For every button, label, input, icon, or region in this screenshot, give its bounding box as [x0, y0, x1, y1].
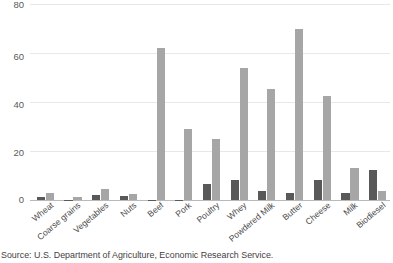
bar-dark-series-biodiesel [369, 170, 377, 201]
x-label-pork: Pork [174, 200, 194, 219]
x-label-nuts: Nuts [118, 200, 138, 219]
bar-light-series-poultry [212, 139, 220, 200]
bar-light-series-beef [157, 48, 165, 201]
plot-area: 80 60 40 20 0 [0, 0, 393, 205]
bar-light-series-milk [350, 168, 358, 201]
bar-dark-series-milk [341, 193, 349, 201]
bar-dark-series-powdered-milk [258, 191, 266, 201]
x-label-cheese: Cheese [303, 200, 332, 227]
x-label-milk: Milk [341, 200, 359, 217]
bar-dark-series-cheese [314, 180, 322, 201]
bar-dark-series-whey [231, 180, 239, 200]
bar-series-layer [30, 0, 390, 200]
y-tick-label: 20 [2, 148, 24, 157]
y-tick-label: 0 [2, 195, 24, 204]
bar-light-series-butter [295, 29, 303, 200]
x-label-biodiesel: Biodiesel [354, 200, 387, 230]
x-label-whey: Whey [226, 200, 249, 222]
source-note: Source: U.S. Department of Agriculture, … [1, 250, 273, 261]
x-label-beef: Beef [146, 200, 166, 219]
bar-dark-series-poultry [203, 184, 211, 200]
bar-dark-series-butter [286, 193, 294, 200]
y-tick-label: 80 [2, 0, 24, 9]
x-label-poultry: Poultry [194, 200, 221, 225]
x-label-butter: Butter [280, 200, 304, 222]
y-axis-ticks: 80 60 40 20 0 [0, 0, 24, 205]
bar-light-series-pork [184, 129, 192, 200]
x-axis-category-labels: WheatCoarse grainsVegetablesNutsBeefPork… [30, 200, 393, 248]
bar-light-series-biodiesel [378, 191, 386, 200]
y-tick-label: 60 [2, 52, 24, 61]
bar-chart-figure: 80 60 40 20 0 WheatCoarse grainsVegetabl… [0, 0, 393, 263]
bar-light-series-cheese [323, 96, 331, 201]
bar-light-series-powdered-milk [267, 89, 275, 200]
bar-light-series-vegetables [101, 189, 109, 200]
bar-light-series-wheat [46, 193, 54, 201]
y-tick-label: 40 [2, 100, 24, 109]
bar-light-series-whey [240, 68, 248, 201]
